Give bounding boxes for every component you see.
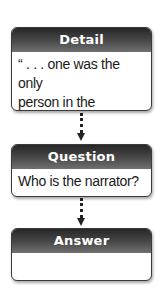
answer-box: Answer [11,228,152,281]
dotted-arrow-down-icon [77,198,86,227]
dotted-arrow-down-icon [77,113,86,142]
answer-box-header: Answer [12,229,151,253]
question-box: Question Who is the narrator? [11,144,152,197]
question-line-1: Who is the narrator? [18,172,145,191]
question-box-header: Question [12,145,151,169]
detail-box: Detail “ . . . one was the only person i… [11,27,152,111]
detail-line-1: “ . . . one was the only [18,55,145,93]
detail-line-2: person in the drawing [18,93,145,111]
arrowhead-icon [77,133,85,141]
detail-box-body: “ . . . one was the only person in the d… [12,52,151,111]
detail-box-header: Detail [12,28,151,52]
question-box-body: Who is the narrator? [12,169,151,195]
arrowhead-icon [77,218,85,226]
dotted-line [80,198,86,218]
answer-box-body [12,253,151,260]
dotted-line [80,113,86,133]
